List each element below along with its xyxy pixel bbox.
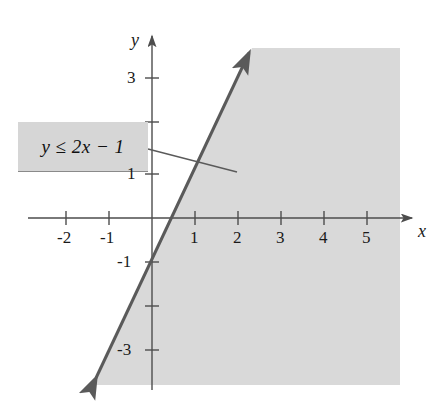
y-tick-label-neg1: -1: [117, 252, 131, 272]
graph-canvas: [0, 0, 445, 404]
y-tick-label-3: 3: [127, 68, 136, 88]
x-tick-label-5: 5: [362, 228, 371, 248]
x-tick-label-3: 3: [276, 228, 285, 248]
x-tick-label-1: 1: [190, 228, 199, 248]
y-tick-label-neg3: -3: [117, 340, 131, 360]
y-axis-label: y: [131, 30, 139, 51]
x-tick-label-neg1: -1: [100, 228, 114, 248]
inequality-graph-figure: y ≤ 2x − 1 y x -2 -1 1 2 3 4 5 3 1 -1 -3: [0, 0, 445, 404]
x-axis-label: x: [418, 221, 426, 242]
x-tick-label-neg2: -2: [57, 228, 71, 248]
shaded-solution-region: [92, 48, 400, 385]
y-tick-label-1: 1: [127, 164, 136, 184]
x-tick-label-2: 2: [233, 228, 242, 248]
inequality-expression: y ≤ 2x − 1: [41, 136, 124, 158]
x-tick-label-4: 4: [319, 228, 328, 248]
